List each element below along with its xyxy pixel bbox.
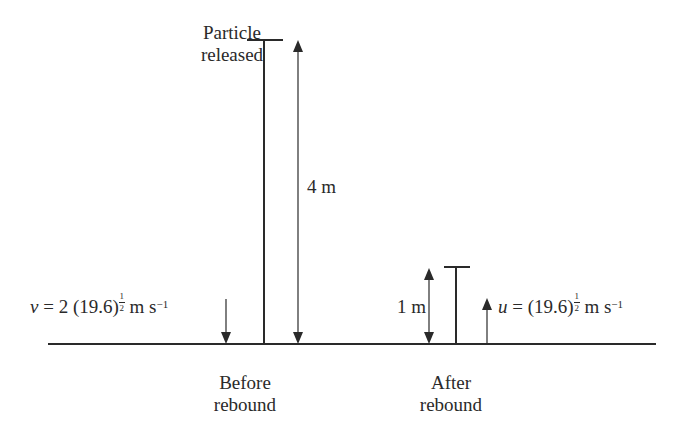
u-unit: m s — [584, 296, 611, 317]
v-symbol: v — [30, 296, 38, 317]
v-unit: m s — [130, 296, 157, 317]
velocity-before-label: v = 2 (19.6)12 m s−1 — [30, 296, 168, 318]
height-4m-label: 4 m — [307, 176, 336, 198]
u-exponent: 12 — [574, 292, 580, 313]
particle-released-line1: Particle — [196, 22, 268, 44]
before-rebound-line1: Before — [200, 372, 290, 394]
u-symbol: u — [498, 296, 508, 317]
height-1m-label: 1 m — [397, 296, 426, 318]
v-coef: 2 (19.6) — [59, 296, 119, 317]
after-rebound-line2: rebound — [406, 394, 496, 416]
velocity-after-arrow-icon — [482, 298, 492, 344]
particle-released-label: Particle released — [196, 22, 268, 66]
diagram-canvas — [0, 0, 686, 438]
particle-released-line2: released — [196, 44, 268, 66]
after-rebound-line1: After — [406, 372, 496, 394]
v-equals: = — [43, 296, 54, 317]
v-exponent: 12 — [119, 292, 125, 313]
u-unit-exp: −1 — [611, 298, 623, 310]
height-4m-arrow-icon — [293, 40, 303, 344]
velocity-before-arrow-icon — [221, 299, 231, 344]
u-coef: (19.6) — [528, 296, 574, 317]
u-equals: = — [512, 296, 523, 317]
before-rebound-label: Before rebound — [200, 372, 290, 416]
after-rebound-label: After rebound — [406, 372, 496, 416]
v-unit-exp: −1 — [157, 298, 169, 310]
velocity-after-label: u = (19.6)12 m s−1 — [498, 296, 623, 318]
before-rebound-line2: rebound — [200, 394, 290, 416]
